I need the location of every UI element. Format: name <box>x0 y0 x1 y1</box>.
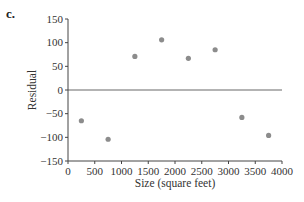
x-tick-label: 4000 <box>271 165 294 177</box>
x-tick-label: 2500 <box>191 165 214 177</box>
data-point <box>239 115 244 120</box>
data-point <box>266 133 271 138</box>
y-tick-label: 100 <box>47 36 64 48</box>
residual-scatter-chart: 150100500−50−100−150 0500100015002000250… <box>0 0 304 202</box>
x-axis-title: Size (square feet) <box>135 177 216 190</box>
y-tick-label: −100 <box>40 131 63 143</box>
x-tick-label: 2000 <box>164 165 187 177</box>
data-point <box>132 54 137 59</box>
y-tick-label: −150 <box>40 155 63 167</box>
x-tick-label: 500 <box>87 165 104 177</box>
y-tick-label: 50 <box>52 60 64 72</box>
x-tick-label: 0 <box>65 165 71 177</box>
y-axis: 150100500−50−100−150 <box>40 13 68 167</box>
x-axis: 05001000150020002500300035004000 <box>65 161 293 177</box>
y-tick-label: −50 <box>46 107 64 119</box>
data-point <box>213 47 218 52</box>
x-tick-label: 1000 <box>111 165 134 177</box>
x-tick-label: 1500 <box>137 165 160 177</box>
y-tick-label: 0 <box>58 84 64 96</box>
data-point <box>186 56 191 61</box>
y-tick-label: 150 <box>47 13 64 25</box>
x-tick-label: 3500 <box>244 165 267 177</box>
y-axis-title: Residual <box>26 70 38 110</box>
data-point <box>159 37 164 42</box>
x-tick-label: 3000 <box>218 165 241 177</box>
data-point <box>106 137 111 142</box>
data-point <box>79 118 84 123</box>
